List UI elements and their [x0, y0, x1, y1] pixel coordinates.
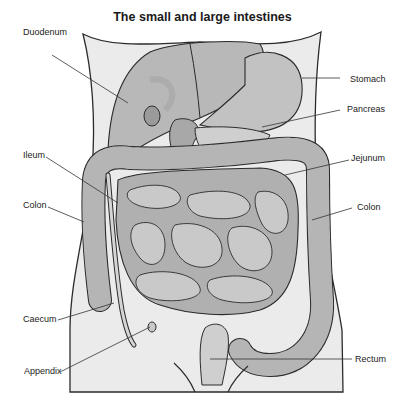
label-stomach: Stomach: [350, 74, 386, 84]
label-jejunum: Jejunum: [351, 153, 385, 163]
label-appendix: Appendix: [24, 366, 62, 376]
label-colon-left: Colon: [23, 200, 47, 210]
label-rectum: Rectum: [355, 354, 386, 364]
gallbladder: [144, 106, 160, 126]
label-pancreas: Pancreas: [347, 104, 385, 114]
label-duodenum: Duodenum: [23, 27, 67, 37]
intestine-loops: [127, 185, 288, 303]
label-caecum: Caecum: [23, 314, 57, 324]
label-colon-right: Colon: [357, 202, 381, 212]
intestines-illustration: [0, 0, 405, 404]
label-ileum: Ileum: [23, 150, 45, 160]
rectum: [200, 324, 228, 385]
